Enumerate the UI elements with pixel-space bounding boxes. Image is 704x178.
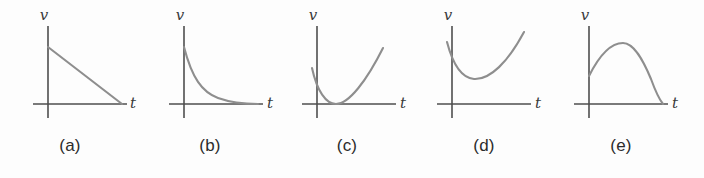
panel-caption-a: (a)	[0, 136, 140, 156]
panel-caption-c: (c)	[277, 136, 417, 156]
curve-e-arch-rise-and-fall	[589, 43, 663, 104]
graph-panel-c: v t (c)	[277, 0, 417, 178]
graph-plot-c: v t	[277, 6, 417, 130]
graph-panel-d: v t (d)	[414, 0, 554, 178]
curve-a-linear-decreasing	[48, 47, 122, 104]
graph-plot-d: v t	[414, 6, 554, 130]
panel-caption-b: (b)	[140, 136, 280, 156]
t-axis-label-a: t	[130, 94, 137, 112]
curve-b-exponential-decay	[184, 47, 258, 104]
panel-caption-d: (d)	[414, 136, 554, 156]
t-axis-label-e: t	[672, 94, 679, 112]
v-axis-label-d: v	[444, 6, 453, 24]
graph-panel-b: v t (b)	[140, 0, 280, 178]
graph-plot-b: v t	[140, 6, 280, 130]
t-axis-label-b: t	[267, 94, 274, 112]
graph-panel-a: v t (a)	[0, 0, 140, 178]
graph-plot-e: v t	[551, 6, 691, 130]
v-axis-label-a: v	[40, 6, 49, 24]
v-axis-label-b: v	[176, 6, 185, 24]
panel-caption-e: (e)	[551, 136, 691, 156]
curve-d-parabola-above-axis	[447, 32, 524, 79]
v-axis-label-e: v	[581, 6, 590, 24]
graph-plot-a: v t	[0, 6, 140, 130]
curve-c-parabola-touching-axis	[312, 48, 383, 104]
graph-panel-e: v t (e)	[551, 0, 691, 178]
figure-container: v t (a) v t (b) v t	[0, 0, 704, 178]
v-axis-label-c: v	[309, 6, 318, 24]
t-axis-label-c: t	[400, 94, 407, 112]
t-axis-label-d: t	[535, 94, 542, 112]
